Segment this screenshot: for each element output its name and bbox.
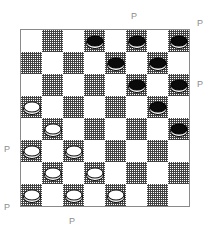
white-piece[interactable]: [23, 146, 40, 157]
board-square[interactable]: [126, 184, 147, 206]
board-square[interactable]: [63, 118, 84, 140]
black-piece[interactable]: [86, 36, 103, 47]
board-square[interactable]: [147, 30, 168, 52]
board-square[interactable]: [63, 74, 84, 96]
board-square[interactable]: [63, 96, 84, 118]
board-label-top-right: P: [197, 19, 203, 28]
board-label-right-upper: P: [197, 80, 203, 89]
board-square[interactable]: [147, 118, 168, 140]
board-square[interactable]: [147, 52, 168, 74]
board-square[interactable]: [84, 162, 105, 184]
board-label-left-middle: P: [4, 145, 10, 154]
white-piece[interactable]: [44, 168, 61, 179]
white-piece[interactable]: [44, 124, 61, 135]
board-square[interactable]: [126, 74, 147, 96]
board-square[interactable]: [168, 184, 189, 206]
board-square[interactable]: [21, 140, 42, 162]
board-square[interactable]: [63, 184, 84, 206]
checkers-board[interactable]: [20, 29, 190, 207]
black-piece[interactable]: [170, 124, 187, 135]
board-square[interactable]: [105, 118, 126, 140]
black-piece[interactable]: [128, 36, 145, 47]
board-square[interactable]: [84, 52, 105, 74]
board-square[interactable]: [168, 162, 189, 184]
white-piece[interactable]: [65, 190, 82, 201]
board-square[interactable]: [105, 74, 126, 96]
black-piece[interactable]: [149, 102, 166, 113]
board-square[interactable]: [84, 118, 105, 140]
board-square[interactable]: [147, 74, 168, 96]
board-square[interactable]: [42, 52, 63, 74]
white-piece[interactable]: [107, 190, 124, 201]
board-square[interactable]: [168, 30, 189, 52]
board-square[interactable]: [168, 118, 189, 140]
board-square[interactable]: [84, 30, 105, 52]
board-square[interactable]: [168, 52, 189, 74]
board-square[interactable]: [21, 118, 42, 140]
board-square[interactable]: [42, 96, 63, 118]
board-square[interactable]: [126, 52, 147, 74]
board-square[interactable]: [105, 140, 126, 162]
board-square[interactable]: [84, 74, 105, 96]
white-piece[interactable]: [65, 146, 82, 157]
board-square[interactable]: [147, 140, 168, 162]
board-square[interactable]: [63, 162, 84, 184]
board-square[interactable]: [63, 30, 84, 52]
board-label-top-center: P: [131, 12, 137, 21]
board-square[interactable]: [21, 162, 42, 184]
board-square[interactable]: [168, 74, 189, 96]
black-piece[interactable]: [128, 80, 145, 91]
white-piece[interactable]: [23, 190, 40, 201]
board-square[interactable]: [105, 30, 126, 52]
board-square[interactable]: [126, 162, 147, 184]
board-square[interactable]: [21, 184, 42, 206]
black-piece[interactable]: [149, 58, 166, 69]
board-square[interactable]: [84, 140, 105, 162]
board-square[interactable]: [42, 140, 63, 162]
board-square[interactable]: [126, 118, 147, 140]
board-square[interactable]: [63, 52, 84, 74]
board-label-left-bottom: P: [4, 203, 10, 212]
white-piece[interactable]: [86, 168, 103, 179]
black-piece[interactable]: [107, 58, 124, 69]
board-square[interactable]: [84, 96, 105, 118]
board-square[interactable]: [105, 184, 126, 206]
board-square[interactable]: [168, 96, 189, 118]
board-label-bottom: P: [69, 217, 75, 226]
board-square[interactable]: [126, 30, 147, 52]
board-square[interactable]: [21, 96, 42, 118]
board-square[interactable]: [63, 140, 84, 162]
board-square[interactable]: [21, 74, 42, 96]
board-square[interactable]: [21, 30, 42, 52]
board-square[interactable]: [126, 96, 147, 118]
board-square[interactable]: [168, 140, 189, 162]
white-piece[interactable]: [23, 102, 40, 113]
board-square[interactable]: [42, 162, 63, 184]
board-square[interactable]: [105, 52, 126, 74]
board-square[interactable]: [147, 162, 168, 184]
black-piece[interactable]: [170, 80, 187, 91]
checkers-board-figure: PPPPPP: [0, 0, 215, 235]
board-square[interactable]: [42, 30, 63, 52]
board-square[interactable]: [126, 140, 147, 162]
board-grid: [21, 30, 189, 206]
board-square[interactable]: [42, 118, 63, 140]
board-square[interactable]: [147, 184, 168, 206]
board-square[interactable]: [42, 184, 63, 206]
board-square[interactable]: [84, 184, 105, 206]
board-square[interactable]: [105, 96, 126, 118]
board-square[interactable]: [42, 74, 63, 96]
board-square[interactable]: [147, 96, 168, 118]
board-square[interactable]: [21, 52, 42, 74]
board-square[interactable]: [105, 162, 126, 184]
black-piece[interactable]: [170, 36, 187, 47]
